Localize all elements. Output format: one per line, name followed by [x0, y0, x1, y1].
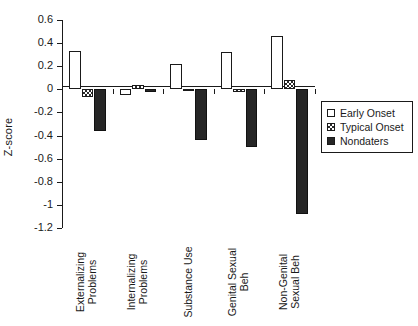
legend-item: Nondaters — [327, 134, 407, 148]
x-axis-tick — [113, 89, 114, 94]
y-axis-tick-label: -1.2 — [19, 221, 53, 233]
chart-legend: Early OnsetTypical OnsetNondaters — [321, 101, 413, 153]
y-axis-tick-label: -0.2 — [19, 105, 53, 117]
bar-typical-onset — [183, 89, 195, 91]
y-axis-tick-label: -1 — [19, 198, 53, 210]
x-axis-category-label: Internalizing Problems — [126, 236, 150, 326]
bar-nondaters — [145, 89, 157, 91]
y-axis-tick: -1 — [57, 205, 62, 206]
x-axis-tick — [264, 89, 265, 94]
bar-nondaters — [246, 89, 258, 147]
y-axis-tick-label: 0.4 — [19, 36, 53, 48]
legend-item: Early Onset — [327, 106, 407, 120]
bar-typical-onset — [132, 85, 144, 90]
plot-area: 0.60.40.20-0.2-0.4-0.6-0.8-1-1.2 — [62, 20, 315, 228]
x-axis-tick — [62, 89, 63, 94]
legend-item-label: Nondaters — [340, 135, 388, 147]
x-axis-category-label: Externalizing Problems — [75, 236, 99, 326]
y-axis-tick: -0.4 — [57, 136, 62, 137]
x-axis-category-label: Non-Genital Sexual Beh — [278, 236, 302, 326]
y-axis-tick-label: 0.2 — [19, 59, 53, 71]
legend-item: Typical Onset — [327, 120, 407, 134]
bar-typical-onset — [284, 80, 296, 89]
bar-nondaters — [195, 89, 207, 140]
y-axis-tick-label: 0 — [19, 82, 53, 94]
y-axis-tick: -1.2 — [57, 228, 62, 229]
x-axis-tick — [214, 89, 215, 94]
y-axis-tick: 0.2 — [57, 66, 62, 67]
y-axis-tick: -0.6 — [57, 159, 62, 160]
bar-early-onset — [271, 36, 283, 89]
x-axis-category-label: Substance Use — [183, 236, 195, 326]
y-axis-tick: -0.8 — [57, 182, 62, 183]
y-axis-label: Z-score — [2, 92, 14, 182]
y-axis-tick-label: -0.6 — [19, 152, 53, 164]
y-axis-tick: 0.6 — [57, 20, 62, 21]
x-axis-tick — [163, 89, 164, 94]
bar-early-onset — [69, 51, 81, 89]
legend-item-label: Early Onset — [340, 107, 395, 119]
legend-item-label: Typical Onset — [340, 121, 404, 133]
y-axis-tick: 0.4 — [57, 43, 62, 44]
bar-typical-onset — [233, 89, 245, 91]
bar-nondaters — [94, 89, 106, 131]
y-axis-tick-label: 0.6 — [19, 13, 53, 25]
bar-early-onset — [120, 89, 132, 95]
y-axis-tick-label: -0.8 — [19, 175, 53, 187]
x-axis-tick — [315, 89, 316, 94]
bar-early-onset — [170, 64, 182, 89]
y-axis-tick: -0.2 — [57, 112, 62, 113]
bar-typical-onset — [82, 89, 94, 97]
x-axis-category-label: Genital Sexual Beh — [227, 236, 251, 326]
bar-early-onset — [221, 52, 233, 89]
z-score-bar-chart: Z-score 0.60.40.20-0.2-0.4-0.6-0.8-1-1.2… — [0, 0, 418, 326]
legend-swatch-early-icon — [327, 109, 335, 117]
legend-swatch-typical-icon — [327, 123, 335, 131]
y-axis-tick-label: -0.4 — [19, 129, 53, 141]
y-axis-line — [62, 20, 63, 228]
bar-nondaters — [296, 89, 308, 214]
legend-swatch-nondaters-icon — [327, 137, 335, 145]
